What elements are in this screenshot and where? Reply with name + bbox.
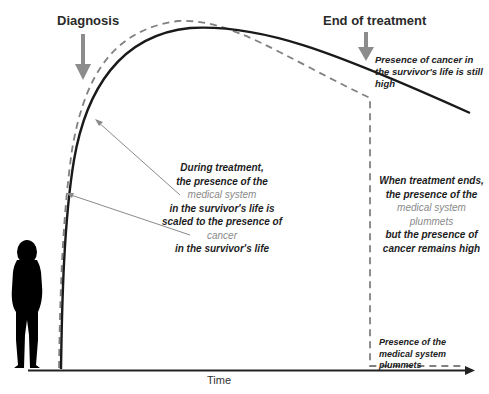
during-line-2: the presence of the (152, 175, 292, 189)
survivor-silhouette-icon (12, 240, 43, 368)
during-treatment-note: During treatment, the presence of the me… (152, 161, 292, 256)
ends-line-5: but the presence of (374, 228, 489, 242)
during-line-7: in the survivor's life (152, 242, 292, 256)
during-line-5: scaled to the presence of (152, 215, 292, 229)
ends-line-6: cancer remains high (374, 242, 489, 256)
when-treatment-ends-note: When treatment ends, the presence of the… (374, 174, 489, 255)
during-line-6: cancer (152, 229, 292, 243)
medical-plummets-note: Presence of the medical system plummets (379, 337, 479, 372)
ends-line-2: the presence of the (374, 188, 489, 202)
x-axis-label: Time (207, 374, 231, 386)
ends-line-1: When treatment ends, (374, 174, 489, 188)
diagnosis-arrow-icon (75, 34, 91, 80)
diagnosis-label: Diagnosis (57, 13, 119, 28)
during-line-1: During treatment, (152, 161, 292, 175)
during-line-3: medical system (152, 188, 292, 202)
during-line-4: in the survivor's life is (152, 202, 292, 216)
ends-line-4: plummets (374, 215, 489, 229)
end-of-treatment-label: End of treatment (323, 13, 426, 28)
ends-line-3: medical system (374, 201, 489, 215)
cancer-still-high-note: Presence of cancer in the survivor's lif… (375, 54, 489, 90)
end-of-treatment-arrow-icon (358, 32, 374, 61)
